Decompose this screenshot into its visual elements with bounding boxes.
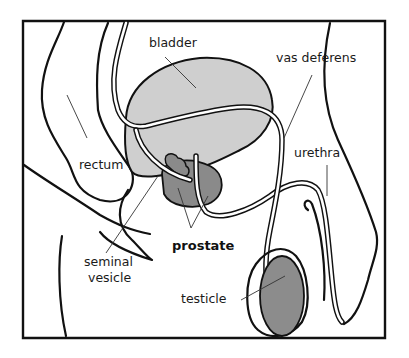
rectum-leader [67,95,87,138]
vas-deferens-leader [284,75,312,138]
rectum-inner-wall [24,165,150,234]
bladder-shape [125,58,273,177]
label-urethra: urethra [294,145,340,160]
label-testicle: testicle [181,291,227,306]
label-seminal: seminal [84,254,133,269]
pelvic-floor-line [59,236,66,336]
anatomy-diagram: bladder vas deferens rectum urethra semi… [0,0,409,358]
label-vas-deferens: vas deferens [276,50,356,65]
label-vesicle: vesicle [88,270,131,285]
label-rectum: rectum [79,157,123,172]
label-prostate: prostate [172,238,235,253]
label-bladder: bladder [149,35,198,50]
testicle-shape [260,256,304,336]
